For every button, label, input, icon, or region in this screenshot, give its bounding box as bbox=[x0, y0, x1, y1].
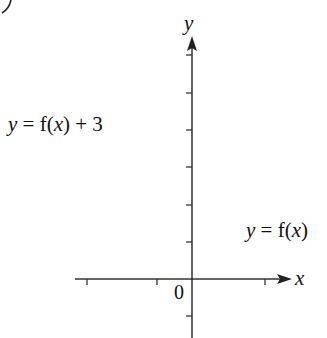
y-axis-label: y bbox=[184, 11, 193, 36]
label-f-plus-3-y: y bbox=[8, 112, 17, 136]
x-axis-label: x bbox=[295, 266, 304, 291]
label-f-plus-3-tail: ) + 3 bbox=[63, 112, 103, 136]
chart-canvas bbox=[0, 0, 327, 338]
label-f-tail: ) bbox=[301, 218, 308, 242]
label-f-plus-3-eq: = f( bbox=[17, 112, 53, 136]
label-f-plus-3-x: x bbox=[54, 112, 63, 136]
origin-label: 0 bbox=[174, 281, 184, 304]
label-f-plus-3: y = f(x) + 3 bbox=[8, 112, 103, 137]
label-f: y = f(x) bbox=[246, 218, 308, 243]
label-f-y: y bbox=[246, 218, 255, 242]
label-f-eq: = f( bbox=[255, 218, 291, 242]
y-axis-ticks bbox=[186, 55, 192, 316]
corner-paren-fragment bbox=[2, 0, 11, 13]
label-f-x: x bbox=[292, 218, 301, 242]
